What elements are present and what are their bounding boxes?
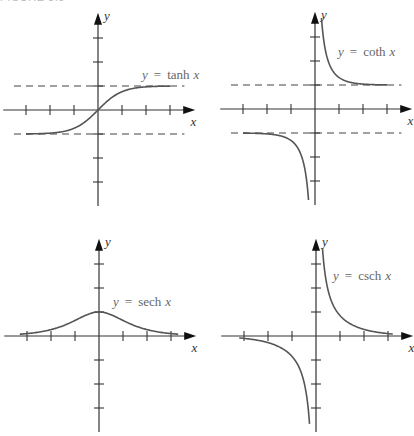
y-axis-label: y <box>320 234 328 249</box>
curve-csch <box>239 338 309 424</box>
x-axis-arrow-icon <box>400 105 412 113</box>
figure-canvas: xyy=tanhx xyy=cothx xyy=sechx xyy=cschx <box>0 0 414 436</box>
y-axis-arrow-icon <box>311 12 319 24</box>
plot-coth: xyy=cothx <box>220 7 413 205</box>
plot-sech: xyy=sechx <box>4 234 197 432</box>
y-axis-label: y <box>102 8 110 23</box>
x-axis-label: x <box>189 114 196 129</box>
y-axis-label: y <box>103 234 111 249</box>
x-axis-label: x <box>190 340 197 355</box>
plot-csch: xyy=cschx <box>221 234 414 432</box>
x-axis-label: x <box>406 113 413 128</box>
curve-csch <box>322 248 392 334</box>
plot-tanh: xyy=tanhx <box>3 8 199 206</box>
x-axis-arrow-icon <box>184 332 196 340</box>
equation-label: y=cothx <box>336 44 396 59</box>
x-axis-arrow-icon <box>183 106 195 114</box>
equation-label: y=cschx <box>331 268 391 283</box>
y-axis-arrow-icon <box>312 239 320 251</box>
equation-label: y=sechx <box>111 294 171 309</box>
curve-coth <box>243 133 309 200</box>
x-axis-label: x <box>407 340 414 355</box>
equation-label: y=tanhx <box>140 67 200 82</box>
y-axis-arrow-icon <box>95 239 103 251</box>
y-axis-label: y <box>319 7 327 22</box>
x-axis-arrow-icon <box>401 332 413 340</box>
y-axis-arrow-icon <box>94 13 102 25</box>
